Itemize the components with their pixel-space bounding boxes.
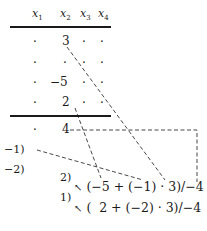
connector-from-3 <box>67 47 165 180</box>
connector-lines <box>0 0 207 231</box>
connector-from-minus1 <box>37 150 143 180</box>
connector-from-2 <box>75 108 101 178</box>
